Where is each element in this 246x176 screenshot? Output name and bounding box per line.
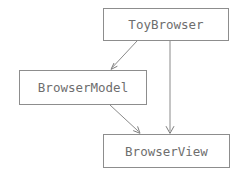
node-browsermodel[interactable]: BrowserModel — [19, 70, 147, 105]
node-browserview[interactable]: BrowserView — [103, 134, 230, 168]
edge-line — [110, 105, 139, 132]
node-toybrowser[interactable]: ToyBrowser — [103, 8, 229, 41]
arrowhead-icon — [111, 63, 117, 69]
edge-toybrowser-to-browsermodel — [111, 41, 137, 69]
node-toybrowser-label: ToyBrowser — [128, 18, 203, 31]
node-browsermodel-label: BrowserModel — [38, 81, 128, 94]
node-browserview-label: BrowserView — [125, 145, 208, 158]
edge-line — [112, 41, 137, 68]
edge-browsermodel-to-browserview — [110, 105, 140, 133]
dependency-diagram: ToyBrowser BrowserModel BrowserView — [0, 0, 246, 176]
edge-toybrowser-to-browserview — [166, 41, 174, 133]
